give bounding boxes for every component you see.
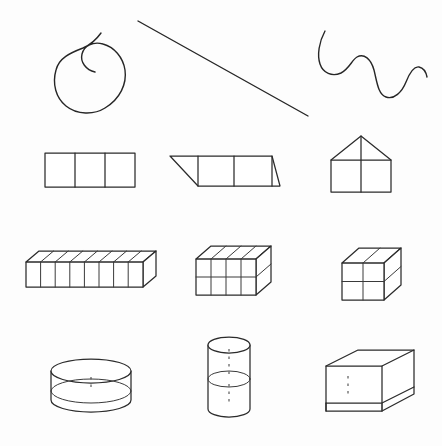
cube-block-solid bbox=[196, 246, 271, 295]
tall-cylinder bbox=[208, 337, 250, 417]
cube-2x2x2-solid bbox=[342, 248, 401, 300]
worksheet-canvas: Geometric figures worksheet Hand-drawn w… bbox=[0, 0, 442, 446]
wide-cylinder bbox=[51, 359, 131, 412]
figures-svg bbox=[0, 0, 442, 446]
cube-row-solid bbox=[26, 251, 156, 287]
divided-rectangle bbox=[45, 153, 135, 187]
